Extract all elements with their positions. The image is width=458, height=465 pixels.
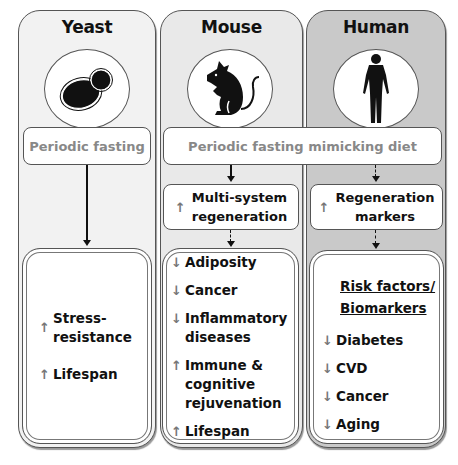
- regen-line-1: Multi-system: [192, 190, 287, 205]
- down-arrow-icon: ↓: [171, 281, 185, 300]
- up-arrow-icon: ↑: [175, 198, 186, 217]
- outcome-aging: ↓ Aging: [322, 415, 403, 434]
- down-arrow-icon: ↓: [322, 387, 336, 406]
- outcome-immune-cognitive-rejuvenation: ↑ Immune &cognitiverejuvenation: [171, 356, 287, 413]
- yeast-connector-line: [86, 165, 88, 241]
- outcome-inflammatory-diseases: ↓ Inflammatorydiseases: [171, 309, 287, 347]
- outcome-lifespan: ↑ Lifespan: [39, 365, 132, 384]
- outcome-cancer: ↓ Cancer: [171, 281, 287, 300]
- multi-system-regeneration-label: Multi-system regeneration: [192, 188, 287, 226]
- up-arrow-icon: ↑: [39, 309, 53, 337]
- outcome-stress-resistance: ↑ Stress-resistance: [39, 309, 132, 347]
- arrowhead-icon: [83, 240, 91, 246]
- mouse-outcomes-box: ↓ Adiposity ↓ Cancer ↓ Inflammatorydisea…: [162, 248, 299, 444]
- down-arrow-icon: ↓: [322, 331, 336, 350]
- arrowhead-icon: [227, 241, 235, 247]
- outcome-cancer: ↓ Cancer: [322, 387, 403, 406]
- human-figure-icon: [361, 53, 391, 125]
- yeast-icon-circle: [44, 49, 130, 129]
- human-outcomes-box: Risk factors/Biomarkers ↓ Diabetes ↓ CVD…: [309, 250, 444, 444]
- human-title: Human: [307, 17, 445, 37]
- up-arrow-icon: ↑: [319, 198, 330, 217]
- regeneration-markers-label: Regeneration markers: [335, 188, 434, 226]
- outcome-diabetes: ↓ Diabetes: [322, 331, 403, 350]
- risk-factors-heading: Risk factors/Biomarkers: [340, 275, 435, 319]
- regeneration-markers-box: ↑ Regeneration markers: [310, 184, 443, 230]
- up-arrow-icon: ↑: [171, 422, 185, 441]
- down-arrow-icon: ↓: [171, 309, 185, 328]
- multi-system-regeneration-box: ↑ Multi-system regeneration: [163, 184, 299, 230]
- outcome-adiposity: ↓ Adiposity: [171, 253, 287, 272]
- yeast-title: Yeast: [19, 17, 155, 37]
- regen-line-2: markers: [355, 209, 415, 224]
- arrowhead-icon: [372, 176, 380, 182]
- fasting-mimicking-diet-box: Periodic fasting mimicking diet: [163, 127, 442, 165]
- mouse-icon-circle: [187, 49, 273, 129]
- yeast-cell-icon: [57, 66, 117, 112]
- mouse-icon: [197, 57, 263, 121]
- outcome-cvd: ↓ CVD: [322, 359, 403, 378]
- outcome-lifespan: ↑ Lifespan: [171, 422, 287, 441]
- fasting-mimicking-diet-label: Periodic fasting mimicking diet: [188, 139, 417, 154]
- periodic-fasting-box: Periodic fasting: [23, 127, 151, 165]
- arrowhead-icon: [372, 243, 380, 249]
- human-icon-circle: [333, 49, 419, 129]
- mouse-title: Mouse: [161, 17, 302, 37]
- arrowhead-icon: [227, 176, 235, 182]
- down-arrow-icon: ↓: [322, 415, 336, 434]
- up-arrow-icon: ↑: [39, 365, 53, 384]
- regen-line-1: Regeneration: [335, 190, 434, 205]
- down-arrow-icon: ↓: [171, 253, 185, 272]
- human-dashed-connector-bottom: [375, 230, 376, 244]
- periodic-fasting-label: Periodic fasting: [29, 139, 145, 154]
- yeast-outcomes-box: ↑ Stress-resistance ↑ Lifespan: [22, 248, 152, 444]
- down-arrow-icon: ↓: [322, 359, 336, 378]
- regen-line-2: regeneration: [192, 209, 287, 224]
- up-arrow-icon: ↑: [171, 356, 185, 375]
